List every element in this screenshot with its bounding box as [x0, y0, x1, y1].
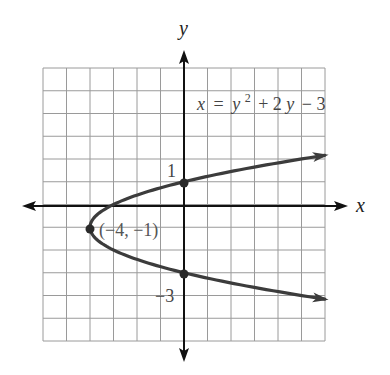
- plot-canvas: x y (−4, −1) 1 −3 x = y 2 + 2 y − 3: [0, 0, 390, 375]
- eq-lhs: x: [196, 94, 205, 114]
- tick-label-y-neg3: −3: [155, 286, 174, 306]
- y-intercept-lower-point: [180, 270, 189, 279]
- tick-label-y-1: 1: [167, 161, 176, 181]
- parabola-graph: x y (−4, −1) 1 −3 x = y 2 + 2 y − 3: [0, 0, 390, 375]
- x-axis-label: x: [355, 194, 365, 216]
- eq-equals: =: [214, 94, 224, 114]
- y-intercept-upper-point: [180, 179, 189, 188]
- eq-y2: y: [284, 94, 294, 114]
- eq-exponent: 2: [245, 91, 251, 105]
- y-axis-label: y: [177, 17, 188, 40]
- axes: x y: [22, 17, 365, 362]
- eq-y: y: [230, 94, 240, 114]
- eq-minus-3: − 3: [302, 94, 326, 114]
- vertex-point: [86, 225, 95, 234]
- equation-label: x = y 2 + 2 y − 3: [196, 86, 325, 114]
- vertex-label: (−4, −1): [99, 220, 158, 241]
- eq-plus-2: + 2: [258, 94, 282, 114]
